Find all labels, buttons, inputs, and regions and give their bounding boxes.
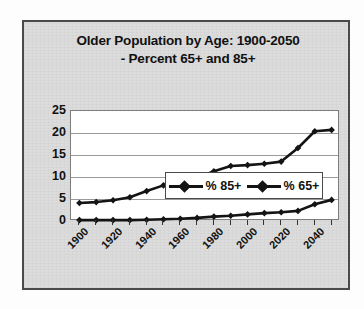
x-axis-tick-label: 1960 (162, 225, 192, 255)
x-axis-labels: 19001920194019601980200020202040 (70, 225, 340, 275)
data-point-marker (295, 208, 302, 215)
legend-label-85plus: % 85+ (206, 179, 242, 193)
chart-legend: % 85+ % 65+ (165, 172, 323, 199)
data-point-marker (261, 210, 268, 217)
data-point-marker (127, 194, 134, 201)
y-axis-tick-label: 10 (26, 169, 66, 183)
data-point-marker (227, 163, 234, 170)
data-point-marker (211, 213, 218, 220)
data-point-marker (244, 211, 251, 218)
y-axis-tick-label: 0 (26, 213, 66, 227)
legend-item-85plus: % 85+ (169, 179, 242, 193)
diamond-marker-icon (247, 180, 281, 192)
x-axis-tick-label: 1920 (95, 225, 125, 255)
series-line-85 (79, 200, 331, 220)
series-lines (71, 111, 340, 221)
x-axis-tick-label: 2000 (229, 225, 259, 255)
y-axis-tick-label: 15 (26, 147, 66, 161)
chart-title: Older Population by Age: 1900-2050 - Per… (24, 32, 352, 68)
x-axis-tick-label: 1940 (128, 225, 158, 255)
x-axis-tick-label: 2020 (263, 225, 293, 255)
y-axis-labels: 0510152025 (24, 110, 66, 220)
data-point-marker (311, 201, 318, 208)
x-axis-tick-label: 1900 (61, 225, 91, 255)
data-point-marker (110, 197, 117, 204)
y-axis-tick-label: 25 (26, 103, 66, 117)
y-axis-tick-label: 20 (26, 125, 66, 139)
y-axis-tick-label: 5 (26, 191, 66, 205)
diamond-marker-icon (169, 180, 203, 192)
legend-item-65plus: % 65+ (247, 179, 320, 193)
data-point-marker (244, 162, 251, 169)
plot-area (70, 110, 339, 220)
x-axis-tick-label: 1980 (196, 225, 226, 255)
chart-title-line-2: - Percent 65+ and 85+ (24, 50, 352, 68)
x-axis-tick-label: 2040 (297, 225, 327, 255)
data-point-marker (328, 127, 335, 134)
data-point-marker (261, 161, 268, 168)
legend-label-65plus: % 65+ (284, 179, 320, 193)
chart-image: Older Population by Age: 1900-2050 - Per… (0, 0, 364, 309)
data-point-marker (278, 209, 285, 216)
chart-title-line-1: Older Population by Age: 1900-2050 (76, 33, 299, 48)
data-point-marker (93, 199, 100, 206)
data-point-marker (328, 197, 335, 204)
chart-frame: Older Population by Age: 1900-2050 - Per… (22, 20, 350, 290)
data-point-marker (143, 188, 150, 195)
data-point-marker (76, 200, 83, 207)
data-point-marker (227, 212, 234, 219)
